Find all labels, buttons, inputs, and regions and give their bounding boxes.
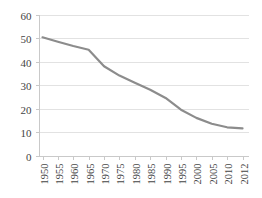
x-axis-tick-label: 1960 — [69, 164, 80, 185]
x-axis-tick-label: 1965 — [85, 164, 96, 185]
y-axis-tick-label: 60 — [21, 10, 33, 22]
y-axis-tick-label: 40 — [21, 57, 33, 69]
y-axis-tick-label: 20 — [21, 104, 33, 116]
x-axis-tick-label: 1995 — [177, 164, 188, 185]
x-axis-tick-label: 1990 — [162, 164, 173, 185]
tick-group — [36, 16, 244, 160]
y-axis-tick-label: 0 — [26, 151, 32, 163]
x-axis-tick-label: 1980 — [131, 164, 142, 185]
x-axis-tick-label: 2005 — [208, 164, 219, 185]
x-axis-tick-label: 1985 — [146, 164, 157, 185]
y-axis-tick-label: 30 — [21, 80, 33, 92]
x-axis-tick-label: 2000 — [192, 164, 203, 185]
chart-plot-area: 0102030405060 19501955196019651970197519… — [0, 0, 262, 198]
x-axis-tick-label: 1955 — [54, 164, 65, 185]
x-axis-tick-label: 2010 — [223, 164, 234, 185]
x-axis-tick-label: 2012 — [239, 164, 250, 185]
line-chart: 0102030405060 19501955196019651970197519… — [0, 0, 262, 198]
x-axis-tick-label: 1975 — [115, 164, 126, 185]
y-axis-tick-label: 10 — [21, 127, 33, 139]
y-axis-tick-label: 50 — [21, 33, 33, 45]
x-axis-labels: 1950195519601965197019751980198519901995… — [39, 164, 250, 185]
x-axis-tick-label: 1950 — [39, 164, 50, 185]
data-series-line — [43, 37, 243, 128]
x-axis-tick-label: 1970 — [100, 164, 111, 185]
y-axis-labels: 0102030405060 — [21, 10, 33, 163]
